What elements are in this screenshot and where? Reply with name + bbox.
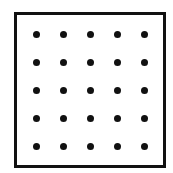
grid-dot: [114, 31, 121, 38]
grid-dot: [141, 87, 148, 94]
grid-dot: [33, 143, 40, 150]
grid-dot: [114, 59, 121, 66]
grid-dot: [60, 31, 67, 38]
grid-dot: [33, 31, 40, 38]
grid-dot: [141, 59, 148, 66]
grid-dot: [33, 59, 40, 66]
grid-dot: [114, 87, 121, 94]
grid-dot: [87, 31, 94, 38]
grid-dot: [33, 115, 40, 122]
grid-dot: [60, 143, 67, 150]
grid-dot: [60, 87, 67, 94]
grid-dot: [114, 143, 121, 150]
grid-dot: [141, 31, 148, 38]
grid-dot: [87, 59, 94, 66]
grid-dot: [87, 87, 94, 94]
grid-dot: [60, 59, 67, 66]
grid-dot: [141, 115, 148, 122]
grid-dot: [114, 115, 121, 122]
grid-dot: [33, 87, 40, 94]
grid-dot: [60, 115, 67, 122]
grid-dot: [87, 143, 94, 150]
grid-dot: [141, 143, 148, 150]
grid-dot: [87, 115, 94, 122]
